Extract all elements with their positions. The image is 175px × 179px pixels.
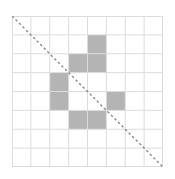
filled-cell (69, 110, 88, 129)
filled-cell (88, 110, 107, 129)
filled-cell (50, 73, 69, 92)
filled-cell (88, 54, 107, 73)
filled-cell (69, 54, 88, 73)
filled-cell (50, 92, 69, 111)
filled-cell (106, 92, 125, 111)
grid-board (12, 16, 163, 167)
grid-canvas (12, 16, 163, 167)
filled-cell (88, 35, 107, 54)
